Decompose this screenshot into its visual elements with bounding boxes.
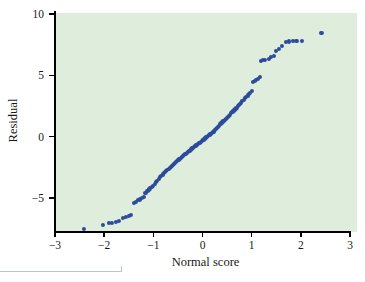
- x-axis-tick: [251, 232, 252, 237]
- y-axis-tick: [49, 75, 54, 76]
- data-point: [250, 89, 254, 93]
- y-axis-tick: [49, 13, 54, 14]
- data-point: [129, 213, 133, 217]
- normal-probability-plot-figure: 1050−5 −3−2−10123 Normal score Residual: [0, 0, 365, 282]
- y-axis-tick-label: −5: [10, 192, 44, 204]
- x-axis-tick: [202, 232, 203, 237]
- x-axis-tick-label: 3: [347, 239, 353, 251]
- x-axis-tick-label: 0: [200, 239, 206, 251]
- x-axis-tick: [349, 232, 350, 237]
- data-point: [319, 31, 323, 35]
- data-point: [257, 75, 261, 79]
- x-axis-tick-label: 2: [298, 239, 304, 251]
- y-axis-tick: [49, 197, 54, 198]
- data-point: [142, 195, 146, 199]
- y-axis-line: [54, 11, 56, 233]
- footer-rule: [0, 271, 122, 272]
- x-axis-tick: [153, 232, 154, 237]
- x-axis-tick-label: 1: [249, 239, 255, 251]
- data-point: [280, 44, 284, 48]
- x-axis-tick-label: −1: [147, 239, 159, 251]
- plot-panel: [55, 13, 357, 232]
- x-axis-tick-label: −3: [49, 239, 61, 251]
- y-axis-title-label: Residual: [6, 99, 20, 143]
- scatter-plot-area: [55, 13, 357, 232]
- x-axis-tick-label: −2: [98, 239, 110, 251]
- y-axis-tick: [49, 136, 54, 137]
- data-point: [117, 219, 121, 223]
- y-axis-tick-label: 10: [10, 8, 44, 20]
- data-point: [300, 39, 304, 43]
- x-axis-title: Normal score: [0, 255, 365, 270]
- x-axis-tick: [103, 232, 104, 237]
- x-axis-tick: [54, 232, 55, 237]
- data-point: [101, 223, 105, 227]
- x-axis-tick: [300, 232, 301, 237]
- data-point: [294, 39, 298, 43]
- x-axis-title-label: Normal score: [172, 255, 240, 269]
- footer-rule-cap: [121, 266, 122, 272]
- data-point: [272, 54, 276, 58]
- y-axis-title: Residual: [6, 71, 21, 171]
